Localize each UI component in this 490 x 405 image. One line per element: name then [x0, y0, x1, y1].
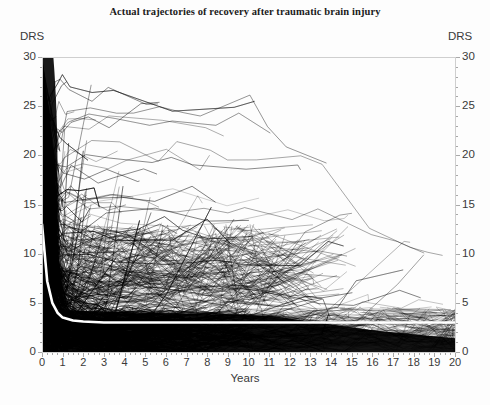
- x-axis-label: Years: [0, 372, 490, 384]
- y-minor-tick-right: [456, 195, 458, 196]
- x-major-tick: [414, 353, 415, 357]
- y-minor-tick-right: [456, 313, 458, 314]
- y-minor-tick-right: [456, 96, 458, 97]
- x-minor-tick: [445, 353, 446, 355]
- x-minor-tick: [238, 353, 239, 355]
- x-minor-tick: [233, 353, 234, 355]
- x-minor-tick: [88, 353, 89, 355]
- x-major-tick: [207, 353, 208, 357]
- x-tick-label: 19: [426, 356, 442, 368]
- y-axis-label-right: DRS: [448, 30, 472, 42]
- plot-frame-right: [455, 57, 456, 352]
- y-major-tick-right: [456, 205, 460, 206]
- y-minor-tick-right: [456, 273, 458, 274]
- x-minor-tick: [321, 353, 322, 355]
- x-minor-tick: [78, 353, 79, 355]
- x-minor-tick: [114, 353, 115, 355]
- x-minor-tick: [419, 353, 420, 355]
- x-major-tick: [83, 353, 84, 357]
- y-minor-tick-right: [456, 234, 458, 235]
- chart-title: Actual trajectories of recovery after tr…: [0, 6, 490, 17]
- x-major-tick: [393, 353, 394, 357]
- y-minor-tick-right: [456, 214, 458, 215]
- x-minor-tick: [409, 353, 410, 355]
- y-tick-label: 20: [14, 148, 36, 160]
- x-minor-tick: [336, 353, 337, 355]
- y-minor-tick-right: [456, 185, 458, 186]
- x-minor-tick: [450, 353, 451, 355]
- x-minor-tick: [398, 353, 399, 355]
- plot-frame-bottom: [42, 352, 456, 353]
- y-minor-tick-right: [456, 264, 458, 265]
- y-major-tick-right: [456, 352, 460, 353]
- x-tick-label: 13: [302, 356, 318, 368]
- x-tick-label: 12: [282, 356, 298, 368]
- y-tick-label-right: 15: [462, 198, 484, 210]
- x-tick-label: 17: [385, 356, 401, 368]
- x-tick-label: 11: [261, 356, 277, 368]
- y-minor-tick-right: [456, 77, 458, 78]
- x-minor-tick: [161, 353, 162, 355]
- x-minor-tick: [52, 353, 53, 355]
- x-tick-label: 15: [344, 356, 360, 368]
- x-minor-tick: [326, 353, 327, 355]
- x-minor-tick: [176, 353, 177, 355]
- x-major-tick: [310, 353, 311, 357]
- figure: Actual trajectories of recovery after tr…: [0, 0, 490, 405]
- x-minor-tick: [305, 353, 306, 355]
- y-minor-tick-right: [456, 283, 458, 284]
- y-major-tick-right: [456, 155, 460, 156]
- y-tick-label: 5: [14, 296, 36, 308]
- x-minor-tick: [99, 353, 100, 355]
- x-major-tick: [290, 353, 291, 357]
- x-major-tick: [249, 353, 250, 357]
- y-tick-label-right: 30: [462, 50, 484, 62]
- x-minor-tick: [378, 353, 379, 355]
- y-minor-tick-right: [456, 323, 458, 324]
- x-minor-tick: [383, 353, 384, 355]
- x-major-tick: [63, 353, 64, 357]
- x-tick-label: 20: [447, 356, 463, 368]
- x-major-tick: [372, 353, 373, 357]
- x-minor-tick: [212, 353, 213, 355]
- y-minor-tick-right: [456, 332, 458, 333]
- x-minor-tick: [109, 353, 110, 355]
- x-minor-tick: [264, 353, 265, 355]
- x-major-tick: [228, 353, 229, 357]
- x-minor-tick: [259, 353, 260, 355]
- x-minor-tick: [218, 353, 219, 355]
- x-major-tick: [166, 353, 167, 357]
- x-minor-tick: [171, 353, 172, 355]
- x-minor-tick: [119, 353, 120, 355]
- x-minor-tick: [274, 353, 275, 355]
- y-tick-label: 15: [14, 198, 36, 210]
- y-tick-label-right: 0: [462, 345, 484, 357]
- y-tick-label: 25: [14, 99, 36, 111]
- y-minor-tick-right: [456, 244, 458, 245]
- x-minor-tick: [192, 353, 193, 355]
- y-major-tick-right: [456, 106, 460, 107]
- y-tick-label: 0: [14, 345, 36, 357]
- trajectories-svg: [42, 57, 455, 352]
- x-minor-tick: [243, 353, 244, 355]
- x-tick-label: 2: [75, 356, 91, 368]
- y-axis-label-left: DRS: [20, 30, 44, 42]
- y-tick-label-right: 20: [462, 148, 484, 160]
- y-major-tick-right: [456, 303, 460, 304]
- x-minor-tick: [440, 353, 441, 355]
- x-major-tick: [42, 353, 43, 357]
- y-tick-label-right: 25: [462, 99, 484, 111]
- y-tick-label: 10: [14, 247, 36, 259]
- x-major-tick: [331, 353, 332, 357]
- y-minor-tick-right: [456, 126, 458, 127]
- x-tick-label: 5: [137, 356, 153, 368]
- x-minor-tick: [279, 353, 280, 355]
- x-minor-tick: [181, 353, 182, 355]
- y-minor-tick-right: [456, 136, 458, 137]
- x-tick-label: 0: [34, 356, 50, 368]
- x-minor-tick: [135, 353, 136, 355]
- x-minor-tick: [341, 353, 342, 355]
- plot-frame-top: [42, 57, 456, 58]
- y-minor-tick-right: [456, 116, 458, 117]
- x-minor-tick: [140, 353, 141, 355]
